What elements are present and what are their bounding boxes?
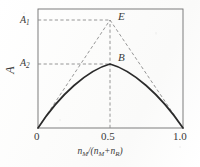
plot-canvas <box>0 0 200 167</box>
y-axis-title: A <box>4 66 16 73</box>
y-level-a1-subscript: 1 <box>26 19 30 27</box>
y-level-label-a2: A2 <box>20 58 30 70</box>
x-title-close: ) <box>119 146 122 156</box>
plot-frame <box>38 9 183 128</box>
x-tick-label-max: 1.0 <box>173 131 187 142</box>
y-level-label-a1: A1 <box>20 15 30 27</box>
point-label-b: B <box>118 52 125 63</box>
x-tick-label-0: 0 <box>34 131 40 142</box>
x-axis-title: nM/(nM+nR) <box>0 147 200 157</box>
point-label-e: E <box>118 11 125 22</box>
job-plot-figure: 0 0.5 1.0 A1 A2 E B A nM/(nM+nR) <box>0 0 200 167</box>
x-tick-label-mid: 0.5 <box>101 131 115 142</box>
y-level-a2-subscript: 2 <box>26 62 30 70</box>
